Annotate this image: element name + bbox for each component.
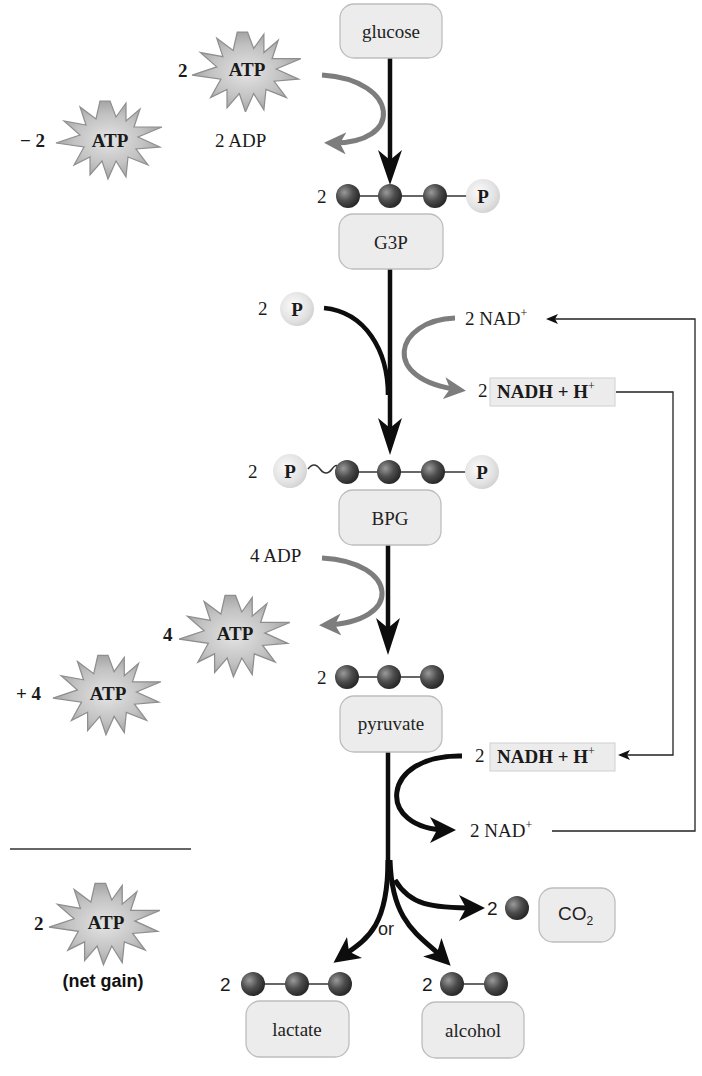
carbon-ball-icon xyxy=(241,972,265,996)
svg-text:ATP: ATP xyxy=(92,130,129,151)
nadh-top: 2 NADH + H+ xyxy=(478,378,615,406)
net-gain-label: (net gain) xyxy=(63,971,144,991)
high-energy-bond-icon xyxy=(308,465,338,473)
adp-step1-label: 2 ADP xyxy=(215,130,266,151)
svg-text:4: 4 xyxy=(163,624,173,645)
svg-text:glucose: glucose xyxy=(362,21,420,42)
nad-bottom: 2 NAD+ xyxy=(470,818,532,841)
svg-text:2: 2 xyxy=(248,461,258,482)
svg-text:ATP: ATP xyxy=(88,912,125,933)
svg-text:2: 2 xyxy=(487,898,498,919)
adp-step3-label: 4 ADP xyxy=(250,545,301,566)
glycolysis-diagram: glucose 2 ATP 2 ADP − 2 ATP 2 P G3P 2 P … xyxy=(0,0,702,1076)
co2-molecule: 2 xyxy=(487,896,529,920)
pyruvate-box: pyruvate xyxy=(340,696,442,752)
svg-text:G3P: G3P xyxy=(374,232,408,253)
bpg-molecule: 2 P P xyxy=(248,454,499,489)
svg-text:2: 2 xyxy=(422,974,433,995)
nadh-bottom: 2 NADH + H+ xyxy=(475,743,615,771)
carbon-ball-icon xyxy=(377,460,401,484)
svg-text:2: 2 xyxy=(220,974,231,995)
atp-investment: 2 ATP xyxy=(178,32,301,112)
svg-text:2: 2 xyxy=(475,745,485,766)
nad-top: 2 NAD+ xyxy=(465,306,527,329)
carbon-ball-icon xyxy=(336,184,360,208)
g3p-box: G3P xyxy=(339,214,443,269)
atp-invest-count: 2 xyxy=(178,60,188,81)
carbon-ball-icon xyxy=(420,665,444,689)
pyruvate-molecule: 2 xyxy=(317,665,444,689)
svg-text:2: 2 xyxy=(317,667,327,688)
alcohol-molecule: 2 xyxy=(422,972,508,996)
svg-text:NADH + H+: NADH + H+ xyxy=(497,379,595,402)
svg-text:ATP: ATP xyxy=(90,683,127,704)
alcohol-box: alcohol xyxy=(422,1002,524,1058)
carbon-ball-icon xyxy=(440,972,464,996)
lactate-molecule: 2 xyxy=(220,972,352,996)
svg-text:2: 2 xyxy=(317,186,327,207)
atp-net-gain: 2 ATP (net gain) xyxy=(34,883,160,991)
svg-text:2: 2 xyxy=(34,913,44,934)
svg-text:ATP: ATP xyxy=(229,59,266,80)
svg-text:P: P xyxy=(284,461,296,482)
carbon-ball-icon xyxy=(505,896,529,920)
atp-invest-total: − 2 ATP xyxy=(20,101,162,179)
atp-to-adp-arrow xyxy=(322,75,383,143)
svg-text:pyruvate: pyruvate xyxy=(358,713,424,734)
nad-reduction-arrow xyxy=(404,318,460,390)
phosphate-in-arrow xyxy=(324,308,388,395)
arrow-to-alcohol xyxy=(390,860,445,960)
svg-text:alcohol: alcohol xyxy=(445,1020,501,1041)
svg-text:+ 4: + 4 xyxy=(16,683,42,704)
carbon-ball-icon xyxy=(423,184,447,208)
svg-text:lactate: lactate xyxy=(272,1019,322,1040)
adp-to-atp-arrow xyxy=(322,558,382,625)
atp-payoff-total: + 4 ATP xyxy=(16,655,161,734)
carbon-ball-icon xyxy=(484,972,508,996)
lactate-box: lactate xyxy=(246,1001,349,1057)
carbon-ball-icon xyxy=(285,972,309,996)
co2-box: CO2 xyxy=(539,888,615,942)
svg-text:2 NAD+: 2 NAD+ xyxy=(470,818,532,841)
svg-text:− 2: − 2 xyxy=(20,130,45,151)
svg-text:2: 2 xyxy=(478,380,488,401)
svg-text:2: 2 xyxy=(258,298,268,319)
carbon-ball-icon xyxy=(377,665,401,689)
arrow-to-lactate xyxy=(340,860,388,958)
arrow-to-co2 xyxy=(395,880,477,908)
glucose-box: glucose xyxy=(340,4,442,58)
carbon-ball-icon xyxy=(328,972,352,996)
svg-text:P: P xyxy=(291,299,303,320)
g3p-molecule: 2 P xyxy=(317,179,500,213)
carbon-ball-icon xyxy=(335,460,359,484)
svg-text:BPG: BPG xyxy=(372,508,409,529)
svg-text:ATP: ATP xyxy=(217,623,254,644)
bpg-box: BPG xyxy=(339,490,441,545)
svg-text:2 NAD+: 2 NAD+ xyxy=(465,306,527,329)
nadh-transfer-line xyxy=(616,392,673,755)
inorganic-phosphate: 2 P xyxy=(258,292,314,326)
carbon-ball-icon xyxy=(421,460,445,484)
svg-text:P: P xyxy=(477,186,489,207)
svg-text:P: P xyxy=(476,462,488,483)
svg-text:NADH + H+: NADH + H+ xyxy=(497,744,595,767)
carbon-ball-icon xyxy=(378,184,402,208)
branch-or-label: or xyxy=(378,919,394,939)
carbon-ball-icon xyxy=(335,665,359,689)
nadh-oxidation-arrow xyxy=(397,756,462,830)
atp-payoff: 4 ATP xyxy=(163,595,290,677)
